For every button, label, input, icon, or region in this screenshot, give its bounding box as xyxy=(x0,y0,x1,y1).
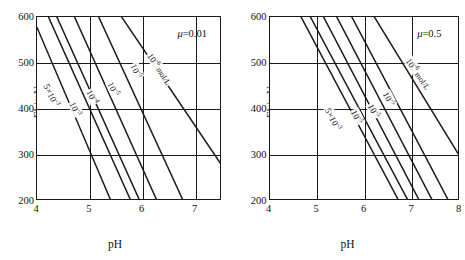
x-tick-labels-left: 4 5 6 7 xyxy=(0,203,233,219)
x-tick-label: 4 xyxy=(26,203,46,214)
curves-left xyxy=(37,17,220,199)
figure-eh-ph-diagrams: Eh/mV 600 500 400 300 200 xyxy=(0,0,465,260)
curves-right xyxy=(270,17,458,199)
x-axis-title-left: pH xyxy=(10,238,220,250)
x-axis-title-right: pH xyxy=(243,238,453,250)
x-tick-label: 5 xyxy=(79,203,99,214)
y-tick-label: 500 xyxy=(10,57,34,68)
curve-5e-3 xyxy=(301,17,398,199)
mu-value: =0.01 xyxy=(183,28,207,39)
y-tick-label: 300 xyxy=(243,149,267,160)
x-tick-label: 6 xyxy=(354,203,374,214)
y-tick-labels-left: 600 500 400 300 200 xyxy=(0,0,34,260)
x-tick-label: 8 xyxy=(449,203,465,214)
plot-area-left: μ=0.01 5×10-3 10-3 10-4 10-5 10-5 10-6 m… xyxy=(36,16,221,200)
y-tick-labels-right: 600 500 400 300 200 xyxy=(233,0,267,260)
mu-value: =0.5 xyxy=(422,28,441,39)
curve-1e-5-b xyxy=(336,17,431,199)
mu-annotation-right: μ=0.5 xyxy=(417,28,441,39)
x-tick-label: 6 xyxy=(132,203,152,214)
y-tick-label: 400 xyxy=(10,103,34,114)
mu-annotation-left: μ=0.01 xyxy=(177,28,207,39)
y-tick-label: 600 xyxy=(243,11,267,22)
x-tick-label: 7 xyxy=(401,203,421,214)
y-tick-label: 300 xyxy=(10,149,34,160)
x-tick-label: 4 xyxy=(259,203,279,214)
x-tick-label: 5 xyxy=(306,203,326,214)
x-tick-labels-right: 4 5 6 7 8 xyxy=(233,203,465,219)
panel-right: Eh/mV 600 500 400 300 200 xyxy=(233,0,465,260)
x-tick-label: 7 xyxy=(185,203,205,214)
plot-area-right: μ=0.5 5×10-3 10-5 10-5 10-5 10-6 mol/L xyxy=(269,16,459,200)
curve-1e-6 xyxy=(374,17,458,154)
y-tick-label: 400 xyxy=(243,103,267,114)
y-tick-label: 500 xyxy=(243,57,267,68)
panel-left: Eh/mV 600 500 400 300 200 xyxy=(0,0,233,260)
y-tick-label: 600 xyxy=(10,11,34,22)
curve-1e-3 xyxy=(48,17,130,199)
curve-1e-5-a xyxy=(75,17,157,199)
